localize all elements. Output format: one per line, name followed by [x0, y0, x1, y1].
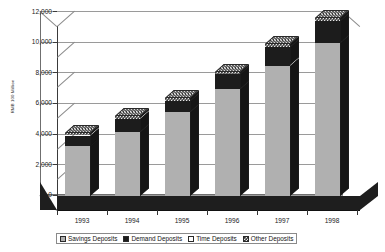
x-tick-0: [57, 210, 58, 215]
x-tick-1: [107, 210, 108, 215]
bar-1995-demand[interactable]: [165, 101, 190, 112]
y-tick-mark-6000: [53, 103, 57, 104]
y-tick-mark-2000: [53, 164, 57, 165]
bar-1998-demand[interactable]: [315, 21, 340, 43]
chart-floor: [57, 196, 360, 210]
y-tick-label-10000: 10,000: [10, 38, 52, 45]
x-axis-label-1996: 1996: [212, 217, 252, 224]
bar-1998-savings[interactable]: [315, 43, 340, 196]
bar-1994-savings[interactable]: [115, 132, 140, 196]
chart-legend: Savings Deposits Demand Deposits Time De…: [56, 233, 297, 244]
y-axis-title: RMB 100 Million: [10, 67, 15, 127]
gridline-12000: [40, 11, 343, 12]
y-tick-label-4000: 4,000: [10, 130, 52, 137]
legend-item-other-deposits[interactable]: Other Deposits: [243, 235, 294, 242]
bar-1996-demand[interactable]: [215, 74, 240, 89]
legend-item-time-deposits[interactable]: Time Deposits: [188, 235, 237, 242]
bar-1995-savings[interactable]: [165, 112, 190, 196]
y-tick-label-2000: 2,000: [10, 161, 52, 168]
x-axis-label-1994: 1994: [112, 217, 152, 224]
legend-label-time-deposits: Time Deposits: [196, 235, 237, 242]
x-tick-2: [157, 210, 158, 215]
y-tick-label-6000: 6,000: [10, 99, 52, 106]
legend-swatch-demand-icon: [123, 236, 129, 242]
x-axis-label-1997: 1997: [262, 217, 302, 224]
x-axis-label-1998: 1998: [312, 217, 352, 224]
plot-area: 12,000 10,000 8,000 6,000 4,000 2,000 0: [0, 0, 385, 252]
x-tick-3: [207, 210, 208, 215]
x-axis-label-1995: 1995: [162, 217, 202, 224]
legend-label-other-deposits: Other Deposits: [251, 235, 294, 242]
bar-1993-demand[interactable]: [65, 136, 90, 147]
legend-item-savings-deposits[interactable]: Savings Deposits: [60, 235, 117, 242]
floor-right-edge: [360, 182, 378, 210]
y-tick-label-12000: 12,000: [10, 8, 52, 15]
legend-label-demand-deposits: Demand Deposits: [131, 235, 182, 242]
y-tick-mark-4000: [53, 134, 57, 135]
legend-label-savings-deposits: Savings Deposits: [68, 235, 117, 242]
bar-1996-savings[interactable]: [215, 89, 240, 196]
y-tick-mark-10000: [53, 42, 57, 43]
y-tick-mark-12000: [53, 11, 57, 12]
x-axis-line: [57, 210, 360, 211]
legend-swatch-savings-icon: [60, 236, 66, 242]
legend-swatch-time-icon: [188, 236, 194, 242]
x-axis-label-1993: 1993: [62, 217, 102, 224]
legend-item-demand-deposits[interactable]: Demand Deposits: [123, 235, 182, 242]
bar-chart: 12,000 10,000 8,000 6,000 4,000 2,000 0: [0, 0, 385, 252]
x-tick-5: [307, 210, 308, 215]
x-tick-4: [257, 210, 258, 215]
x-tick-6: [357, 210, 358, 215]
y-tick-label-8000: 8,000: [10, 69, 52, 76]
bar-1997-demand[interactable]: [265, 47, 290, 65]
bar-1994-demand[interactable]: [115, 119, 140, 132]
bar-1997-savings[interactable]: [265, 66, 290, 196]
y-tick-mark-8000: [53, 72, 57, 73]
bar-1993-savings[interactable]: [65, 146, 90, 196]
legend-swatch-other-icon: [243, 236, 249, 242]
